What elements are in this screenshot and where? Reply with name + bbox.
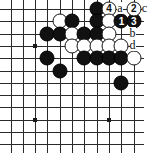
grid-line-vertical — [35, 0, 36, 153]
stone-black — [114, 75, 129, 90]
point-label-d: d — [130, 39, 136, 51]
point-label-c: c — [142, 2, 147, 14]
stone-move-number: 2 — [131, 4, 136, 14]
grid-line-vertical — [11, 0, 12, 153]
point-label-b: b — [130, 27, 136, 39]
go-board-diagram: 4132abcd — [0, 0, 156, 163]
grid-line-vertical — [23, 0, 24, 153]
hoshi-star-point — [107, 118, 111, 122]
stone-move-number: 4 — [106, 4, 111, 14]
stone-black — [40, 51, 55, 66]
stone-white — [126, 51, 141, 66]
stone-move-number: 3 — [131, 16, 136, 26]
grid-line-vertical — [84, 0, 85, 153]
stone-white-numbered: 2 — [126, 2, 141, 17]
stone-move-number: 1 — [119, 16, 124, 26]
stone-black — [52, 63, 67, 78]
point-label-a: a — [117, 2, 122, 14]
hoshi-star-point — [33, 44, 37, 48]
hoshi-star-point — [33, 118, 37, 122]
grid-line-vertical — [47, 0, 48, 153]
